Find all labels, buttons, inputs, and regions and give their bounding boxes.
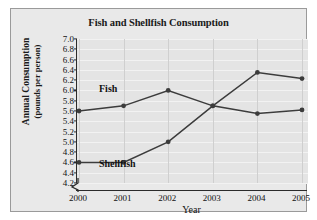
data-point	[77, 160, 82, 165]
x-tick-label: 2004	[247, 193, 265, 203]
y-tick-mark	[74, 152, 77, 153]
y-axis-label-line1: Annual Consumption	[21, 17, 32, 147]
y-tick-label: 6.2	[63, 75, 74, 85]
y-tick-label: 6.8	[63, 44, 74, 54]
y-tick-label: 5.2	[63, 127, 74, 137]
x-axis-label: Year	[76, 204, 307, 215]
x-tick-label: 2003	[203, 193, 221, 203]
y-tick-mark	[74, 110, 77, 111]
data-point	[210, 103, 215, 108]
data-point	[255, 70, 260, 75]
y-tick-label: 5.0	[63, 137, 74, 147]
y-tick-mark	[74, 69, 77, 70]
x-tick-label: 2002	[158, 193, 176, 203]
data-point	[255, 111, 260, 116]
data-point	[300, 76, 305, 81]
y-tick-mark	[74, 90, 77, 91]
y-axis-label-line2: (pounds per person)	[31, 17, 42, 147]
data-point	[166, 139, 171, 144]
chart-title: Fish and Shellfish Consumption	[11, 17, 306, 28]
y-tick-label: 5.4	[63, 116, 74, 126]
y-tick-mark	[74, 131, 77, 132]
x-tick-label: 2000	[69, 193, 87, 203]
x-axis-line	[76, 190, 307, 191]
data-point	[77, 109, 82, 114]
y-tick-mark	[74, 172, 77, 173]
data-point	[166, 88, 171, 93]
y-tick-mark	[74, 49, 77, 50]
y-tick-label: 5.6	[63, 106, 74, 116]
data-point	[121, 103, 126, 108]
x-tick-label: 2001	[114, 193, 132, 203]
y-tick-label: 6.6	[63, 55, 74, 65]
gridline-horizontal	[77, 183, 308, 184]
y-tick-label: 4.6	[63, 157, 74, 167]
y-tick-label: 5.8	[63, 96, 74, 106]
series-label-fish: Fish	[99, 83, 117, 94]
y-tick-mark	[74, 59, 77, 60]
y-axis-label: Annual Consumption (pounds per person)	[21, 17, 42, 147]
y-tick-label: 6.0	[63, 85, 74, 95]
data-point	[300, 108, 305, 113]
x-tick-label: 2005	[292, 193, 310, 203]
series-label-shellfish: Shellfish	[99, 158, 136, 169]
y-tick-label: 4.8	[63, 147, 74, 157]
y-tick-mark	[74, 38, 77, 39]
y-tick-mark	[74, 80, 77, 81]
y-tick-mark	[74, 121, 77, 122]
y-tick-label: 7.0	[63, 34, 74, 44]
plot-area: Fish Shellfish 7.06.86.66.46.26.05.85.65…	[76, 39, 308, 183]
y-tick-mark	[74, 162, 77, 163]
y-tick-mark	[74, 141, 77, 142]
figure: Fish and Shellfish Consumption Annual Co…	[0, 0, 317, 220]
y-tick-label: 6.4	[63, 65, 74, 75]
y-tick-mark	[74, 100, 77, 101]
chart-panel: Fish and Shellfish Consumption Annual Co…	[10, 8, 307, 212]
